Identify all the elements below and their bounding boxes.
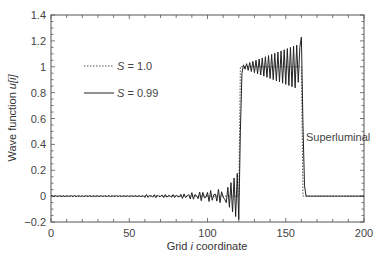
y-tick-label: 0.2	[31, 164, 46, 176]
y-tick-label: 0.6	[31, 113, 46, 125]
x-axis-label: Grid i coordinate	[167, 240, 248, 252]
y-tick-label: 0.4	[31, 138, 46, 150]
legend-label-s-1-0: S = 1.0	[117, 60, 152, 72]
plot-frame	[51, 15, 364, 222]
y-tick-label: 1.2	[31, 35, 46, 47]
x-tick-label: 100	[198, 227, 216, 239]
y-tick-label: −0.2	[24, 216, 46, 228]
y-tick-label: 1	[40, 61, 46, 73]
axis-tick-labels: 050100150200−0.200.20.40.60.811.21.4	[24, 9, 373, 239]
x-tick-label: 200	[355, 227, 373, 239]
x-tick-label: 50	[123, 227, 135, 239]
legend: S = 1.0 S = 0.99	[84, 60, 158, 99]
series-s-0-99	[51, 37, 364, 219]
wave-function-chart: 050100150200−0.200.20.40.60.811.21.4 S =…	[0, 0, 384, 264]
legend-label-s-0-99: S = 0.99	[117, 87, 158, 99]
x-tick-label: 0	[48, 227, 54, 239]
y-axis-label: Wave function u[i]	[6, 74, 18, 162]
superluminal-annotation: Superluminal	[306, 131, 370, 143]
axis-ticks	[51, 15, 364, 222]
y-tick-label: 0.8	[31, 87, 46, 99]
y-tick-label: 0	[40, 190, 46, 202]
y-tick-label: 1.4	[31, 9, 46, 21]
x-tick-label: 150	[277, 227, 295, 239]
